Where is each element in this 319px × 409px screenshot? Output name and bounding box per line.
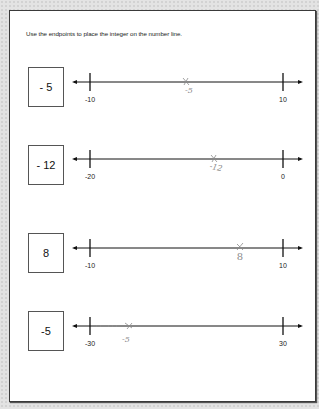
left-endpoint-label: -20 bbox=[85, 173, 95, 180]
student-x-mark-icon bbox=[236, 242, 244, 251]
student-x-mark-icon bbox=[182, 77, 190, 86]
instruction-text: Use the endpoints to place the integer o… bbox=[26, 30, 182, 37]
student-handwritten-label: -5 bbox=[122, 335, 130, 344]
integer-box: -5 bbox=[28, 311, 64, 351]
student-handwritten-label: -5 bbox=[185, 86, 193, 95]
number-line: -30 30 -5 bbox=[72, 310, 303, 350]
number-line: -10 10 -5 bbox=[72, 66, 303, 106]
student-x-mark-icon bbox=[124, 322, 134, 330]
student-handwritten-label: 8 bbox=[237, 251, 243, 262]
left-endpoint-label: -10 bbox=[85, 262, 95, 269]
left-endpoint-label: -10 bbox=[85, 96, 95, 103]
right-endpoint-label: 30 bbox=[279, 340, 287, 347]
number-line-item-3: 8 -10 10 8 bbox=[10, 232, 315, 292]
right-endpoint-label: 10 bbox=[279, 262, 287, 269]
number-line-arrow-icon bbox=[72, 310, 303, 350]
number-line: -20 0 -12 bbox=[72, 144, 303, 184]
number-line-item-4: -5 -30 30 -5 bbox=[10, 310, 315, 370]
integer-box: - 5 bbox=[28, 67, 64, 107]
left-endpoint-label: -30 bbox=[85, 340, 95, 347]
right-endpoint-label: 10 bbox=[279, 96, 287, 103]
number-line-item-1: - 5 -10 10 -5 bbox=[10, 66, 315, 126]
number-line-item-2: - 12 -20 0 -12 bbox=[10, 144, 315, 204]
number-line-arrow-icon bbox=[72, 232, 303, 272]
integer-box: 8 bbox=[28, 233, 64, 273]
integer-box: - 12 bbox=[28, 145, 64, 185]
number-line: -10 10 8 bbox=[72, 232, 303, 272]
worksheet-page: Use the endpoints to place the integer o… bbox=[9, 10, 316, 402]
right-endpoint-label: 0 bbox=[281, 173, 285, 180]
number-line-arrow-icon bbox=[72, 144, 303, 184]
